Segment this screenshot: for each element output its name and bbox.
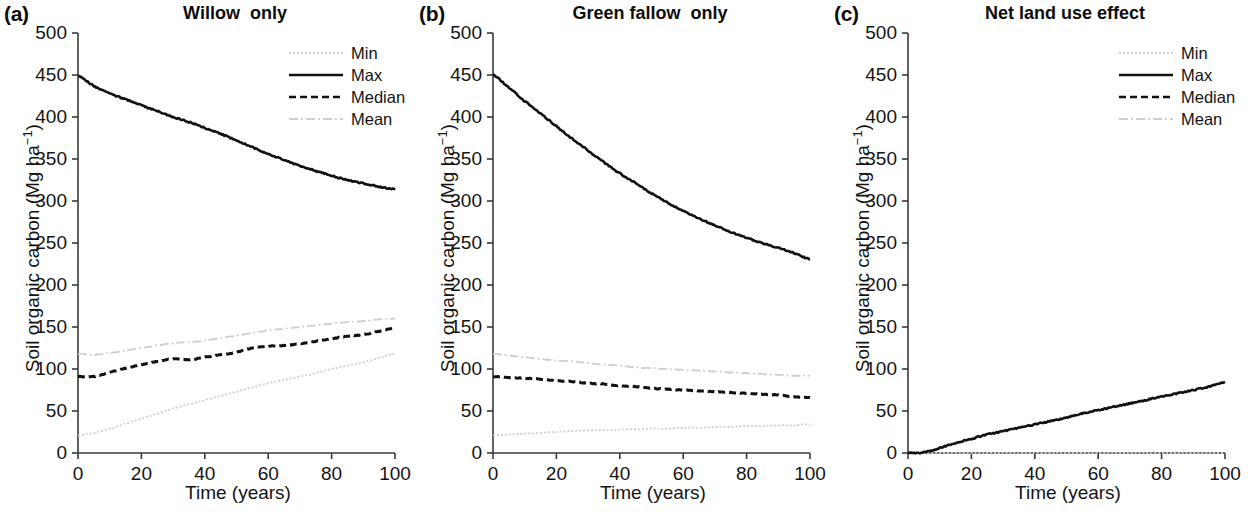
legend-label-median: Median (351, 89, 405, 106)
legend-label-mean: Mean (351, 111, 392, 128)
x-tick-label: 60 (258, 463, 279, 484)
series-max (493, 75, 810, 260)
y-tick-label: 0 (56, 442, 67, 463)
legend-item-min[interactable]: Min (288, 42, 405, 64)
panel-c-y-axis-label: Soil organic carbon (Mg ha−1) (850, 58, 874, 438)
series-min (78, 354, 395, 436)
y-tick-label: 0 (886, 442, 897, 463)
panel-c-x-axis-label: Time (years) (908, 482, 1228, 504)
x-tick-label: 20 (961, 463, 982, 484)
panel-b-green-fallow-only: (b) Green fallow only 050100150200250300… (415, 0, 832, 518)
x-tick-label: 40 (1024, 463, 1045, 484)
series-max (908, 382, 1225, 453)
x-tick-label: 40 (194, 463, 215, 484)
y-tick-label: 50 (876, 400, 897, 421)
series-min (493, 424, 810, 435)
panel-c-net-land-use-effect: (c) Net land use effect 0501001502002503… (830, 0, 1247, 518)
y-tick-label: 0 (471, 442, 482, 463)
legend-item-mean[interactable]: Mean (288, 108, 405, 130)
series-mean (493, 354, 810, 376)
legend-item-median[interactable]: Median (288, 86, 405, 108)
x-tick-label: 0 (488, 463, 499, 484)
x-tick-label: 20 (546, 463, 567, 484)
y-tick-label: 50 (461, 400, 482, 421)
legend-swatch-mean (288, 112, 344, 126)
x-tick-label: 80 (321, 463, 342, 484)
panel-a-x-axis-label: Time (years) (78, 482, 398, 504)
x-tick-label: 40 (609, 463, 630, 484)
x-tick-label: 80 (1151, 463, 1172, 484)
y-tick-label: 50 (46, 400, 67, 421)
figure-soil-organic-carbon: (a) Willow only 050100150200250300350400… (0, 0, 1251, 518)
panel-b-plot: 0501001502002503003504004505000204060801… (415, 0, 832, 518)
legend-item-max[interactable]: Max (288, 64, 405, 86)
x-tick-label: 100 (1209, 463, 1241, 484)
legend-swatch-max (288, 68, 344, 82)
x-tick-label: 100 (379, 463, 411, 484)
legend-swatch-median (288, 90, 344, 104)
y-tick-label: 500 (865, 22, 897, 43)
panel-a-willow-only: (a) Willow only 050100150200250300350400… (0, 0, 417, 518)
x-tick-label: 0 (903, 463, 914, 484)
x-tick-label: 60 (1088, 463, 1109, 484)
legend-swatch-min (288, 46, 344, 60)
y-tick-label: 500 (35, 22, 67, 43)
series-median (493, 377, 810, 398)
legend-label-min: Min (351, 45, 378, 62)
x-tick-label: 100 (794, 463, 826, 484)
x-tick-label: 80 (736, 463, 757, 484)
panel-c-plot: 0501001502002503003504004505000204060801… (830, 0, 1247, 518)
x-tick-label: 0 (73, 463, 84, 484)
series-median (78, 328, 395, 377)
x-tick-label: 20 (131, 463, 152, 484)
panel-b-y-axis-label: Soil organic carbon (Mg ha−1) (435, 58, 459, 438)
panel-b-x-axis-label: Time (years) (493, 482, 813, 504)
x-tick-label: 60 (673, 463, 694, 484)
y-tick-label: 500 (450, 22, 482, 43)
legend-label-max: Max (351, 67, 382, 84)
panel-a-legend: MinMaxMedianMean (288, 42, 405, 130)
panel-a-y-axis-label: Soil organic carbon (Mg ha−1) (20, 58, 44, 438)
